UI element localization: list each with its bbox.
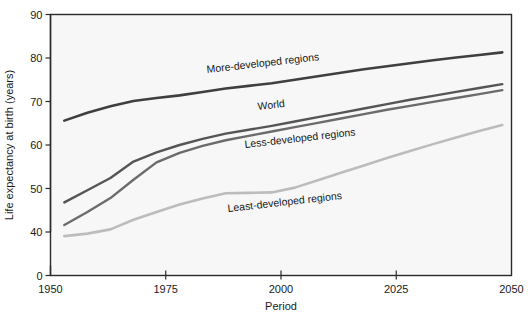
y-tick-label: 50 bbox=[30, 183, 42, 195]
x-axis-tick-labels: 19501975200020252050 bbox=[38, 283, 523, 295]
y-tick-label: 40 bbox=[30, 226, 42, 238]
x-tick-label: 2025 bbox=[384, 283, 408, 295]
x-tick-label: 2000 bbox=[269, 283, 293, 295]
chart-figure: 0405060708090 19501975200020252050 More-… bbox=[0, 0, 530, 316]
y-axis-title: Life expectancy at birth (years) bbox=[3, 70, 15, 220]
x-axis-title: Period bbox=[265, 300, 297, 312]
y-axis-ticks bbox=[46, 15, 51, 276]
y-tick-label: 70 bbox=[30, 96, 42, 108]
y-axis-tick-labels: 0405060708090 bbox=[30, 9, 42, 282]
life-expectancy-line-chart: 0405060708090 19501975200020252050 More-… bbox=[0, 0, 530, 316]
y-tick-label: 90 bbox=[30, 9, 42, 21]
x-tick-label: 1975 bbox=[154, 283, 178, 295]
x-tick-label: 2050 bbox=[499, 283, 523, 295]
y-tick-label: 0 bbox=[36, 270, 42, 282]
y-tick-label: 80 bbox=[30, 52, 42, 64]
y-tick-label: 60 bbox=[30, 139, 42, 151]
x-tick-label: 1950 bbox=[38, 283, 62, 295]
